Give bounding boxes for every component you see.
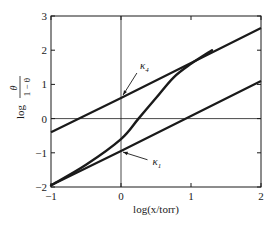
arrowhead-icon: [123, 152, 128, 155]
y-tick-label: 3: [42, 10, 48, 22]
line-k4: [51, 28, 261, 132]
y-tick-label: 2: [42, 44, 48, 56]
x-axis-label: log(x/torr): [133, 203, 179, 216]
x-tick-label: 1: [188, 190, 194, 202]
svg-text:θ: θ: [8, 85, 19, 90]
chart: −1012−2−10123 κ4κ1 log(x/torr) log θ 1 −…: [0, 0, 275, 230]
y-axis-label: log θ 1 − θ: [8, 76, 32, 119]
annotation-label: κ1: [153, 155, 162, 170]
y-tick-label: 1: [42, 78, 48, 90]
annotation-subscript: 4: [145, 66, 149, 74]
y-tick-label: −1: [35, 147, 47, 159]
svg-text:log: log: [14, 104, 26, 119]
y-tick-label: 0: [42, 113, 48, 125]
annotation-subscript: 1: [158, 162, 162, 170]
annotation-label: κ4: [140, 59, 149, 74]
svg-text:1 − θ: 1 − θ: [22, 78, 32, 96]
annotation-k1: κ1: [123, 152, 161, 170]
y-tick-label: −2: [35, 181, 47, 193]
x-tick-label: 2: [258, 190, 264, 202]
x-tick-label: 0: [118, 190, 124, 202]
